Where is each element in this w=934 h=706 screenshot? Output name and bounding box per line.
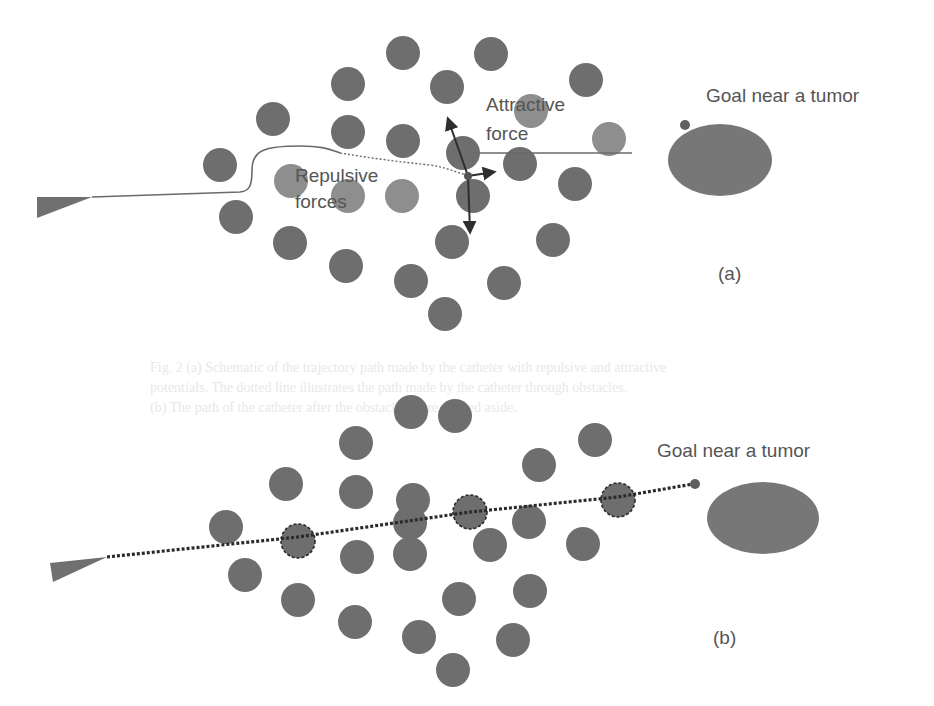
catheter-tip-icon [37, 197, 92, 218]
obstacle-circle [442, 582, 476, 616]
obstacle-circle [402, 620, 436, 654]
bleed-line-2: potentials. The dotted line illustrates … [150, 380, 627, 395]
obstacle-circle [209, 510, 243, 544]
obstacle-circle [428, 297, 462, 331]
obstacle-circle [503, 147, 537, 181]
obstacle-circle [273, 226, 307, 260]
obstacle-circle [487, 266, 521, 300]
obstacle-circle [331, 115, 365, 149]
attractive-force-label-line2: force [486, 123, 528, 144]
obstacle-circle [394, 395, 428, 429]
obstacle-circle [456, 179, 490, 213]
repulsive-forces-label-line1: Repulsive [295, 165, 378, 186]
goal-point [680, 120, 690, 130]
obstacle-circle [340, 540, 374, 574]
panel-b: Goal near a tumor (b) [50, 395, 819, 687]
goal-label-a: Goal near a tumor [706, 85, 860, 106]
obstacle-circle [386, 36, 420, 70]
obstacle-circle [578, 423, 612, 457]
obstacle-circle [473, 528, 507, 562]
obstacle-circle [339, 475, 373, 509]
obstacle-circle [435, 225, 469, 259]
obstacle-circle [385, 179, 419, 213]
obstacle-circle [203, 148, 237, 182]
repulsive-forces-label-line2: forces [295, 191, 347, 212]
path-planning-diagram: Fig. 2 (a) Schematic of the trajectory p… [0, 0, 934, 706]
obstacle-circle [512, 505, 546, 539]
obstacle-circle [558, 167, 592, 201]
obstacle-circle [256, 102, 290, 136]
obstacle-circle [496, 623, 530, 657]
obstacle-circle [601, 483, 635, 517]
tumor-ellipse [668, 124, 772, 196]
obstacle-circle [219, 200, 253, 234]
obstacle-circle [436, 653, 470, 687]
obstacle-circle [394, 264, 428, 298]
obstacle-circle [522, 448, 556, 482]
obstacle-circle [536, 223, 570, 257]
obstacle-circle [338, 605, 372, 639]
obstacle-circle [592, 122, 626, 156]
catheter-tip-icon [50, 557, 107, 582]
goal-point [690, 479, 700, 489]
obstacle-group-a [203, 36, 626, 331]
obstacle-circle [430, 70, 464, 104]
obstacle-circle [393, 506, 427, 540]
panel-a: Goal near a tumor Attractive force Repul… [37, 36, 860, 331]
obstacle-circle [331, 67, 365, 101]
tumor-ellipse [707, 482, 819, 554]
obstacle-circle [339, 426, 373, 460]
obstacle-circle [569, 63, 603, 97]
obstacle-circle [281, 583, 315, 617]
obstacle-circle [566, 527, 600, 561]
panel-caption-a: (a) [718, 263, 741, 284]
obstacle-circle [329, 249, 363, 283]
goal-label-b: Goal near a tumor [657, 440, 811, 461]
obstacle-circle [513, 574, 547, 608]
attractive-force-label-line1: Attractive [486, 94, 565, 115]
obstacle-circle [386, 124, 420, 158]
obstacle-circle [438, 399, 472, 433]
obstacle-circle [393, 537, 427, 571]
obstacle-circle [228, 558, 262, 592]
force-origin-point [464, 172, 472, 180]
bleed-line-1: Fig. 2 (a) Schematic of the trajectory p… [150, 360, 666, 376]
panel-caption-b: (b) [713, 627, 736, 648]
obstacle-circle [474, 37, 508, 71]
obstacle-circle [269, 467, 303, 501]
obstacle-circle [281, 524, 315, 558]
